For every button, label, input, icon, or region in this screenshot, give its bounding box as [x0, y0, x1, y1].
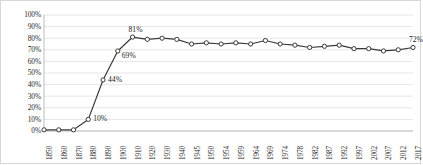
x-axis-tick-label: 1910 [136, 146, 143, 160]
x-axis-tick-label: 2017 [416, 146, 423, 160]
data-point-label: 81% [129, 26, 143, 34]
data-point-marker [322, 44, 326, 48]
x-axis-tick-label: 1978 [298, 146, 305, 160]
x-axis-tick-label: 1860 [62, 146, 69, 160]
data-point-marker [71, 128, 75, 132]
x-axis-tick-label: 1850 [47, 146, 54, 160]
data-point-marker [411, 45, 415, 49]
x-axis-tick-label: 1920 [150, 146, 157, 160]
data-point-marker [337, 43, 341, 47]
x-axis-tick-label: 1997 [357, 146, 364, 160]
plot-area [1, 1, 422, 165]
data-point-marker [381, 49, 385, 53]
data-point-marker [42, 128, 46, 132]
x-axis-tick-label: 1950 [209, 146, 216, 160]
x-axis-tick-label: 1890 [106, 146, 113, 160]
x-axis-tick-label: 1945 [195, 146, 202, 160]
data-point-marker [101, 78, 105, 82]
data-point-marker [293, 43, 297, 47]
data-point-marker [263, 38, 267, 42]
data-point-marker [145, 37, 149, 41]
x-axis-tick-label: 1974 [283, 146, 290, 160]
data-point-marker [116, 49, 120, 53]
data-point-marker [308, 45, 312, 49]
x-axis-tick-label: 1870 [77, 146, 84, 160]
data-point-marker [352, 47, 356, 51]
data-point-marker [130, 35, 134, 39]
data-point-label: 10% [93, 115, 107, 123]
x-axis-tick-label: 1940 [180, 146, 187, 160]
data-point-marker [278, 42, 282, 46]
x-axis-tick-label: 1900 [121, 146, 128, 160]
x-axis-tick-label: 2002 [372, 146, 379, 160]
data-point-marker [219, 42, 223, 46]
data-point-marker [160, 36, 164, 40]
x-axis-tick-label: 1992 [342, 146, 349, 160]
data-point-label: 69% [122, 52, 136, 60]
data-point-marker [249, 42, 253, 46]
data-point-marker [234, 41, 238, 45]
x-axis-tick-label: 1964 [254, 146, 261, 160]
x-axis-tick-label: 2007 [386, 146, 393, 160]
x-axis-tick-label: 1959 [239, 146, 246, 160]
data-point-marker [190, 42, 194, 46]
data-point-marker [204, 41, 208, 45]
data-point-marker [175, 37, 179, 41]
x-axis-tick-label: 1954 [224, 146, 231, 160]
data-point-marker [57, 128, 61, 132]
x-axis-tick-label: 1982 [313, 146, 320, 160]
x-axis-tick-label: 1969 [268, 146, 275, 160]
data-point-label: 44% [108, 76, 122, 84]
x-axis-tick-label: 1880 [91, 146, 98, 160]
data-point-marker [86, 117, 90, 121]
data-point-marker [396, 48, 400, 52]
x-axis-tick-label: 1987 [327, 146, 334, 160]
data-point-marker [367, 47, 371, 51]
data-point-label: 72% [409, 36, 423, 44]
x-axis-tick-label: 1930 [165, 146, 172, 160]
x-axis-tick-label: 2012 [401, 146, 408, 160]
